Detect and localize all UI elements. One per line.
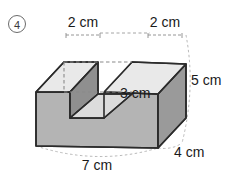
dimension-label-depth-4cm: 4 cm (174, 144, 204, 160)
figure-page: 4 (0, 0, 227, 175)
dimension-label-top-left-2cm: 2 cm (68, 14, 98, 30)
dimension-label-top-right-2cm: 2 cm (150, 14, 180, 30)
dimension-label-width-7cm: 7 cm (82, 157, 112, 173)
dimension-label-notch-3cm: 3 cm (120, 85, 150, 101)
dimension-label-height-5cm: 5 cm (191, 72, 221, 88)
item-number-label: 4 (14, 19, 20, 31)
item-number-badge: 4 (9, 16, 26, 33)
solid-figure-diagram: 4 (0, 0, 227, 175)
